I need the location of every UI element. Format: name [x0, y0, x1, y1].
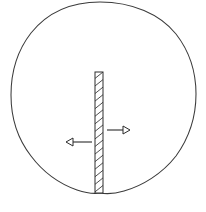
hatch-line — [95, 201, 103, 207]
hatch-line — [95, 193, 103, 199]
diagram-canvas — [0, 0, 206, 212]
diagram-svg — [0, 0, 206, 212]
partition-group — [95, 64, 103, 207]
